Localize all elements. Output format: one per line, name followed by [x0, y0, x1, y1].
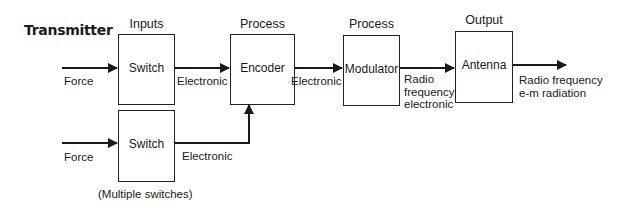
label-rf-em-line2: e-m radiation: [519, 87, 603, 100]
encoder-block: Encoder: [230, 34, 295, 105]
stage-header-process-1: Process: [230, 17, 295, 31]
label-rf-electronic-line3: electronic: [404, 98, 455, 111]
stage-header-process-2: Process: [343, 17, 400, 31]
stage-header-output: Output: [455, 13, 513, 27]
diagram-title: Transmitter: [24, 22, 113, 38]
stage-header-inputs: Inputs: [118, 17, 175, 31]
label-rf-em-radiation: Radio frequency e-m radiation: [519, 74, 603, 99]
antenna-block: Antenna: [455, 31, 513, 103]
label-force-1: Force: [64, 75, 93, 88]
label-electronic-3: Electronic: [182, 150, 233, 163]
label-force-2: Force: [64, 151, 93, 164]
switch-block-1-label: Switch: [119, 61, 174, 75]
label-electronic-1: Electronic: [177, 75, 228, 88]
modulator-block-label: Modulator: [344, 62, 399, 76]
switch-block-1: Switch: [118, 34, 175, 105]
encoder-block-label: Encoder: [231, 61, 294, 75]
switch-block-2-label: Switch: [119, 137, 174, 151]
label-electronic-2: Electronic: [291, 75, 342, 88]
switch-block-2: Switch: [118, 110, 175, 182]
multiple-switches-note: (Multiple switches): [98, 188, 193, 201]
antenna-block-label: Antenna: [456, 58, 512, 72]
arrow-switch2-to-encoder: [175, 105, 249, 143]
label-rf-electronic: Radio frequency electronic: [404, 73, 455, 111]
label-rf-electronic-line1: Radio: [404, 73, 455, 86]
modulator-block: Modulator: [343, 35, 400, 106]
label-rf-electronic-line2: frequency: [404, 86, 455, 99]
label-rf-em-line1: Radio frequency: [519, 74, 603, 87]
